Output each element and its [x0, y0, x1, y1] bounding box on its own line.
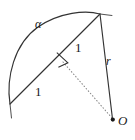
apex-tick [100, 14, 112, 16]
apothem-dotted-line [63, 62, 112, 118]
arc-path [9, 12, 100, 104]
right-angle-mark [57, 53, 68, 68]
figure-canvas [0, 0, 135, 140]
geometry-figure: α 1 1 r O [0, 0, 135, 140]
center-point-label: O [118, 114, 127, 127]
radius-label: r [106, 55, 111, 67]
chord-line [10, 14, 100, 104]
angle-alpha-label: α [35, 18, 41, 30]
center-dot [111, 118, 115, 122]
chord-start-tick [10, 104, 12, 118]
chord-upper-length-label: 1 [75, 41, 82, 54]
chord-lower-length-label: 1 [35, 85, 42, 98]
